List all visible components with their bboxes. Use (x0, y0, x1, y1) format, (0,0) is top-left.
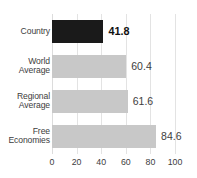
x-tick-40: 40 (96, 156, 106, 168)
category-label-regional-average: RegionalAverage (0, 92, 50, 111)
value-label-world-average: 60.4 (131, 55, 151, 78)
chart-title-remnant (0, 0, 197, 7)
bar-world-average[interactable] (52, 55, 126, 78)
category-label-country: Country (0, 27, 50, 37)
x-tick-20: 20 (72, 156, 82, 168)
x-axis-tick-labels: 020406080100 (52, 156, 175, 172)
plot-area: 41.860.461.684.6 (52, 14, 175, 154)
category-axis-labels: CountryWorldAverageRegionalAverageFreeEc… (0, 14, 50, 154)
x-tick-80: 80 (145, 156, 155, 168)
category-label-line: Country (0, 27, 50, 37)
value-label-free-economies: 84.6 (161, 125, 181, 148)
bar-chart: CountryWorldAverageRegionalAverageFreeEc… (0, 0, 197, 178)
category-label-world-average: WorldAverage (0, 57, 50, 76)
category-label-line: Average (0, 101, 50, 111)
value-label-regional-average: 61.6 (133, 90, 153, 113)
bar-country[interactable] (52, 20, 103, 43)
category-label-free-economies: FreeEconomies (0, 127, 50, 146)
category-label-line: Average (0, 66, 50, 76)
bar-free-economies[interactable] (52, 125, 156, 148)
x-tick-100: 100 (168, 156, 183, 168)
bar-regional-average[interactable] (52, 90, 128, 113)
x-tick-0: 0 (50, 156, 55, 168)
x-tick-60: 60 (121, 156, 131, 168)
category-label-line: Economies (0, 136, 50, 146)
value-label-country: 41.8 (108, 20, 129, 43)
